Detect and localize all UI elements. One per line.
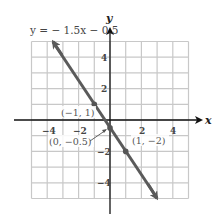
line-graph: x y y = − 1.5x − 0.5 −4 −2 2 4 4 2 −2 −4… (0, 0, 219, 221)
x-tick-label: −4 (42, 126, 56, 136)
y-tick-label: 2 (101, 84, 107, 94)
y-tick-label: −2 (97, 147, 111, 157)
x-tick-label: −2 (73, 126, 87, 136)
data-point (123, 149, 129, 155)
equation-label: y = − 1.5x − 0.5 (29, 24, 118, 36)
data-point (107, 125, 113, 131)
x-axis-label: x (204, 114, 212, 127)
point-label: (1, −2) (132, 135, 166, 146)
point-label: (0, −0.5) (49, 136, 92, 147)
y-tick-label: −4 (97, 178, 111, 188)
x-tick-label: 4 (170, 126, 176, 136)
point-label: (−1, 1) (61, 107, 95, 118)
y-tick-label: 4 (101, 53, 107, 63)
